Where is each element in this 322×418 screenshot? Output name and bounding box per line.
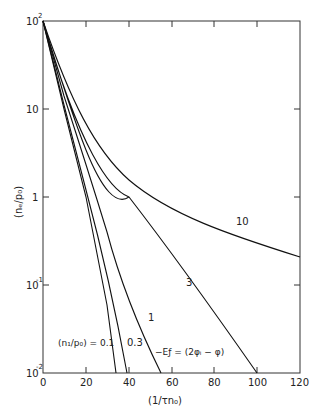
label-10: 10 <box>236 216 249 227</box>
label-ef: −Eƒ = (2φᵢ − φ) <box>155 347 224 357</box>
xtick-40: 40 <box>123 377 136 388</box>
svg-text:-1: -1 <box>36 276 43 284</box>
curve-0.1 <box>43 21 116 373</box>
label-1: 1 <box>148 312 154 323</box>
xtick-80: 80 <box>208 377 221 388</box>
xtick-100: 100 <box>248 377 267 388</box>
xtick-120: 120 <box>290 377 309 388</box>
plot-frame <box>43 21 300 373</box>
x-axis-label: (1/τn₀) <box>148 395 182 406</box>
xtick-60: 60 <box>166 377 179 388</box>
xtick-20: 20 <box>80 377 93 388</box>
ytick-1: 1 <box>32 192 38 203</box>
xtick-0: 0 <box>40 377 46 388</box>
curve-1 <box>43 21 161 373</box>
x-ticks <box>86 21 257 373</box>
ytick-10: 10 <box>26 104 39 115</box>
svg-text:-2: -2 <box>36 363 43 371</box>
ytick-100: 10 <box>26 16 39 27</box>
svg-text:2: 2 <box>38 12 42 20</box>
label-3: 3 <box>186 277 192 288</box>
chart: 10 2 10 1 10 -1 10 -2 0 20 40 60 80 100 … <box>0 0 322 418</box>
label-0.1: (n₁/p₀) = 0.1 <box>58 338 114 348</box>
y-axis-label: (nₑ/p₀) <box>13 186 24 218</box>
y-ticks <box>43 109 300 285</box>
label-0.3: 0.3 <box>127 337 143 348</box>
